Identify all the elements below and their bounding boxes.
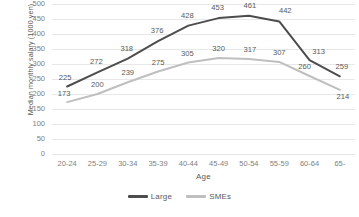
series-line-large xyxy=(67,16,340,87)
y-axis-tick-label: 200 xyxy=(5,90,45,98)
plot-area: 500450400350300250200150100500 225272318… xyxy=(52,4,355,154)
series-lines xyxy=(52,4,355,154)
data-label: 259 xyxy=(336,64,349,72)
data-label: 376 xyxy=(151,28,164,36)
x-axis-tick-label: 65- xyxy=(320,160,359,168)
data-label: 320 xyxy=(212,45,225,53)
y-axis-tick-label: 100 xyxy=(5,120,45,128)
y-axis-tick-label: 400 xyxy=(5,30,45,38)
chart-legend: LargeSMEs xyxy=(0,192,359,201)
data-label: 453 xyxy=(211,5,224,13)
line-chart: Median monthly salary (1000 yen) 5004504… xyxy=(0,0,359,217)
data-label: 272 xyxy=(90,59,103,67)
data-label: 317 xyxy=(244,46,257,54)
gridline xyxy=(52,154,355,155)
legend-label: Large xyxy=(151,192,172,201)
legend-item-large[interactable]: Large xyxy=(128,192,172,201)
data-label: 313 xyxy=(312,49,325,57)
y-axis-tick-label: 50 xyxy=(5,135,45,143)
data-label: 275 xyxy=(152,59,165,67)
legend-item-smes[interactable]: SMEs xyxy=(186,192,231,201)
data-label: 318 xyxy=(120,45,133,53)
data-label: 428 xyxy=(181,12,194,20)
data-label: 200 xyxy=(91,81,104,89)
data-label: 442 xyxy=(279,8,292,16)
x-axis-title: Age xyxy=(52,172,355,181)
y-axis-tick-label: 500 xyxy=(5,0,45,8)
data-label: 239 xyxy=(121,70,134,78)
data-label: 260 xyxy=(298,63,311,71)
y-axis-tick-label: 450 xyxy=(5,15,45,23)
y-axis-tick-label: 300 xyxy=(5,60,45,68)
legend-swatch-icon xyxy=(128,195,148,197)
data-label: 461 xyxy=(244,2,257,10)
y-axis-tick-label: 0 xyxy=(5,150,45,158)
legend-label: SMEs xyxy=(209,192,231,201)
data-label: 225 xyxy=(59,74,72,82)
y-axis-tick-label: 150 xyxy=(5,105,45,113)
data-label: 214 xyxy=(337,93,350,101)
x-axis-tick-labels: 20-2425-2930-3435-3940-4445-4950-5455-59… xyxy=(52,156,355,170)
legend-swatch-icon xyxy=(186,195,206,197)
data-label: 305 xyxy=(181,50,194,58)
y-axis-tick-label: 250 xyxy=(5,75,45,83)
data-label: 173 xyxy=(58,91,71,99)
data-label: 307 xyxy=(273,49,286,57)
y-axis-tick-label: 350 xyxy=(5,45,45,53)
